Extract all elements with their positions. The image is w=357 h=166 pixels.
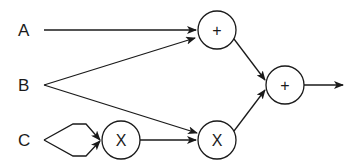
node-multiply-left: X [102,121,140,159]
node-add-top-label: + [212,22,221,39]
input-label-a: A [18,21,30,40]
edge-c-lower-to-mul1 [44,140,100,156]
node-add-output-label: + [280,77,289,94]
node-add-top: + [198,11,236,49]
edge-mul2-to-add2 [234,90,265,131]
node-multiply-left-label: X [116,132,127,149]
edge-add1-to-add2 [234,39,265,80]
computation-graph: A B C + X X + [0,0,357,166]
node-add-output: + [266,66,304,104]
edge-c-upper-to-mul1 [44,124,100,140]
input-label-c: C [18,131,30,150]
edge-b-to-add1 [44,38,195,85]
input-label-b: B [18,76,29,95]
node-multiply-right-label: X [212,132,223,149]
node-multiply-right: X [198,121,236,159]
